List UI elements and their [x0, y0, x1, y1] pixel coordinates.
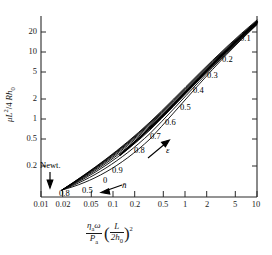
x-axis-title: ηaω Pa ( L 2h0 )2: [86, 221, 133, 245]
curve-label-0.1: 0.1: [240, 34, 251, 43]
x-tick-label-0.5: 0.5: [151, 200, 175, 209]
open-paren: (: [104, 225, 110, 242]
y-axis-title-L: L: [4, 113, 14, 118]
x-tick-label-1: 1: [178, 200, 192, 209]
y-tick-label-0.2: 0.2: [8, 161, 37, 170]
x-tick-label-0.2: 0.2: [123, 200, 147, 209]
close-paren: ): [124, 225, 130, 242]
y-axis-title-L-exp: 2: [2, 109, 9, 112]
x-axis-title-outer-fraction: ηaω Pa: [86, 221, 102, 245]
nbar-arrow: [101, 185, 122, 194]
y-axis-title-h: h: [4, 90, 14, 95]
curve-label-0.9: 0.9: [112, 166, 123, 175]
two-h-symbol: 2h: [111, 232, 120, 242]
h-subscript: 0: [120, 236, 123, 243]
L-symbol: L: [114, 221, 119, 231]
y-axis-title-slash: /4: [4, 102, 14, 109]
y-axis-ticks: [41, 32, 46, 166]
y-axis-title-h-sub: 0: [9, 87, 16, 90]
x-axis-title-denominator: Pa: [86, 234, 102, 246]
x-tick-label-2: 2: [200, 200, 214, 209]
lower-branch-label-0.8: 0.8: [59, 189, 70, 198]
curve-label-0.8: 0.8: [134, 146, 145, 155]
figure-container: 20 10 5 2 1 0.5 0.2 0.01 0.02 0.05 0.1 0…: [0, 0, 272, 255]
right-spine-ticks: [252, 32, 257, 166]
newtonian-arrow: [47, 172, 53, 188]
newtonian-label: Newt.: [40, 161, 61, 170]
curve-label-0.7: 0.7: [150, 132, 161, 141]
x-axis-title-inner-fraction: L 2h0: [110, 222, 124, 244]
axis-frame: [41, 16, 257, 197]
curve-label-0.6: 0.6: [165, 118, 176, 127]
curve-label-0.2: 0.2: [222, 55, 233, 64]
inner-denominator: 2h0: [110, 233, 124, 245]
omega-symbol: ω: [94, 220, 100, 230]
chart-plot-area: [0, 0, 272, 255]
curve-family: [62, 20, 257, 190]
x-axis-title-exponent: 2: [130, 225, 133, 232]
lower-branch-label-0: 0: [103, 176, 107, 185]
x-tick-label-10: 10: [246, 200, 266, 209]
curve-label-0.3: 0.3: [207, 71, 218, 80]
y-axis-title-R: R: [4, 95, 14, 101]
curve-label-0.4: 0.4: [193, 86, 204, 95]
x-axis-ticks: [41, 191, 257, 197]
x-tick-label-0.02: 0.02: [48, 200, 78, 209]
x-tick-label-0.1: 0.1: [101, 200, 125, 209]
epsilon-label: ε: [166, 146, 170, 155]
x-tick-label-5: 5: [228, 200, 242, 209]
curve-0.1: [62, 20, 257, 190]
y-tick-label-10: 10: [12, 47, 37, 56]
y-axis-title-mu: μ: [4, 118, 14, 123]
y-tick-label-20: 20: [12, 27, 37, 36]
P-subscript: a: [95, 237, 98, 244]
y-axis-title: μL2/4 Rh0: [3, 72, 16, 138]
nbar-label: n̄: [122, 181, 127, 190]
curve-label-0.5: 0.5: [180, 103, 191, 112]
lower-branch-label-0.5: 0.5: [82, 186, 93, 195]
